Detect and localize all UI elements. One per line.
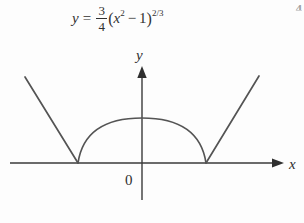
equation-expression: y = 3 4 ( x 2 − 1 ) 2/3: [72, 4, 163, 33]
outer-power: 2/3: [152, 9, 164, 18]
curve-left-branch: [25, 77, 78, 163]
y-axis-label: y: [134, 47, 143, 63]
graph-area: y x 0: [0, 40, 304, 223]
base-variable: x: [113, 11, 120, 26]
fraction-denominator: 4: [96, 20, 107, 33]
y-axis: [137, 66, 146, 200]
constant-term: 1: [139, 11, 147, 26]
coefficient-fraction: 3 4: [96, 4, 107, 33]
origin-label: 0: [125, 172, 133, 188]
figure-page: y = 3 4 ( x 2 − 1 ) 2/3 4: [0, 0, 304, 223]
equation-relation: =: [83, 11, 91, 26]
fraction-numerator: 3: [96, 4, 107, 17]
curve-right-branch: [206, 76, 259, 163]
base-exponent: 2: [120, 9, 125, 18]
equation-lhs: y: [72, 11, 79, 26]
minus-operator: −: [128, 11, 136, 26]
x-axis: [10, 159, 284, 168]
x-axis-label: x: [288, 156, 296, 172]
corner-page-mark: 4: [296, 1, 303, 17]
